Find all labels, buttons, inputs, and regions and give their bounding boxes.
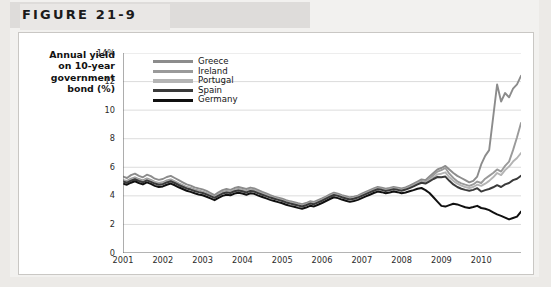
page-margin-bottom	[0, 277, 551, 287]
x-axis-tick-label: 2008	[391, 255, 412, 265]
x-axis-tick-label: 2010	[471, 255, 492, 265]
legend-item: Germany	[153, 95, 263, 105]
y-axis-tick-label: 8	[89, 133, 115, 143]
legend-swatch	[153, 60, 193, 63]
x-axis-tick-label: 2009	[431, 255, 452, 265]
figure-label: FIGURE 21-9	[22, 7, 137, 22]
page-margin-right	[539, 0, 551, 287]
x-axis-tick-label: 2007	[351, 255, 372, 265]
y-axis-tick-label: 4	[89, 190, 115, 200]
legend-swatch	[153, 99, 193, 102]
y-axis-tick-label: 14%	[89, 48, 115, 58]
legend-swatch	[153, 89, 193, 92]
page-margin-left	[0, 0, 10, 287]
series-line-spain	[123, 176, 521, 207]
y-axis-tick-label: 2	[89, 219, 115, 229]
y-axis-tick-labels: 02468101214%	[89, 53, 119, 253]
x-axis-tick-label: 2001	[113, 255, 134, 265]
y-axis-tick-label: 6	[89, 162, 115, 172]
x-axis-tick-label: 2006	[312, 255, 333, 265]
figure-card: Annual yield on 10-year government bond …	[18, 32, 534, 275]
y-axis-tick-label: 10	[89, 105, 115, 115]
legend-swatch	[153, 79, 193, 82]
figure-root: FIGURE 21-9 Annual yield on 10-year gove…	[0, 0, 551, 287]
legend-swatch	[153, 70, 193, 73]
x-axis-tick-label: 2004	[232, 255, 253, 265]
x-axis-tick-label: 2005	[272, 255, 293, 265]
legend-label: Germany	[198, 95, 238, 105]
y-axis-tick-label: 0	[89, 248, 115, 258]
chart-legend: GreeceIrelandPortugalSpainGermany	[153, 57, 263, 105]
x-axis-tick-label: 2003	[192, 255, 213, 265]
series-line-ireland	[123, 123, 521, 205]
y-axis-tick-label: 12	[89, 76, 115, 86]
x-axis-tick-labels: 2001200220032004200520062007200820092010	[123, 255, 523, 269]
x-axis-tick-label: 2002	[152, 255, 173, 265]
